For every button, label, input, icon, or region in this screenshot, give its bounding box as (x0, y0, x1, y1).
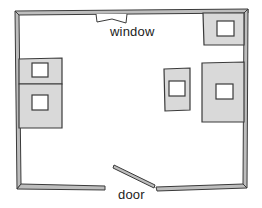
window (96, 14, 127, 23)
door (113, 165, 155, 188)
window-label: window (110, 24, 155, 39)
bottom-left-wall (17, 184, 105, 190)
furniture-right-large-inset (216, 84, 233, 99)
furniture-top-right-inset (217, 21, 234, 36)
door-leaf (113, 165, 155, 188)
furniture-left-upper-inset (32, 63, 48, 77)
furniture-top-right (203, 13, 244, 45)
window-sash (96, 14, 127, 23)
door-label: door (118, 187, 145, 202)
bottom-right-wall (156, 184, 247, 191)
furniture-middle-right (164, 68, 190, 111)
furniture-left-lower-inset (32, 95, 48, 110)
furniture-left-lower (19, 84, 62, 128)
furniture-middle-right-inset (169, 81, 185, 96)
furniture-left-upper (19, 58, 62, 84)
furniture-right-large (202, 62, 244, 122)
